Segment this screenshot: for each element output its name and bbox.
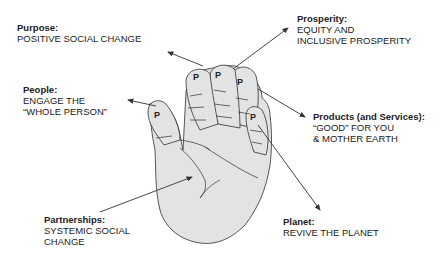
label-prosperity: Prosperity: EQUITY AND INCLUSIVE PROSPER… [297, 13, 411, 46]
label-planet: Planet: REVIVE THE PLANET [283, 216, 379, 238]
hand-icon [148, 65, 272, 243]
svg-text:P: P [193, 72, 199, 82]
svg-text:P: P [250, 112, 256, 122]
svg-text:P: P [154, 110, 160, 120]
arrow-prosperity [233, 28, 288, 69]
label-people: People: ENGAGE THE “WHOLE PERSON” [23, 84, 107, 117]
arrow-purpose [168, 52, 203, 66]
label-purpose: Purpose: POSITIVE SOCIAL CHANGE [17, 22, 141, 44]
svg-text:P: P [237, 77, 243, 87]
svg-text:P: P [215, 70, 221, 80]
label-products: Products (and Services): “GOOD” FOR YOU … [313, 111, 425, 144]
label-partnerships: Partnerships: SYSTEMIC SOCIAL CHANGE [44, 214, 130, 247]
